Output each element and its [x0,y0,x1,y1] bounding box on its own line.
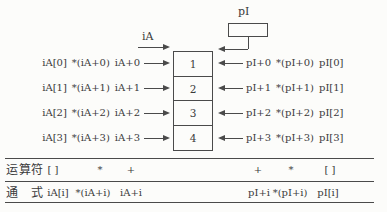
row-arrow-right-icon [144,88,163,89]
pointer-notation-row: pI+3 *(pI+3) pI[3] [246,131,344,145]
pointer-notation-row: pI+1 *(pI+1) pI[1] [246,81,344,95]
operator-row-label: 运算符 [6,163,44,177]
operator-plus-right: + [254,163,262,176]
row-arrow-left-icon [225,88,243,89]
array-deref-form: *(iA+0) [72,56,110,70]
row-arrow-right-icon [144,113,163,114]
pointer-arrow-left-icon [225,49,248,50]
pointer-addr-form: pI+1 [246,81,271,95]
form-pointer-addr: pI+i [248,186,270,199]
memory-cells-box: 1 2 3 4 [173,51,213,151]
array-addr-form: iA+0 [115,56,140,70]
operator-star-left: * [98,163,103,176]
operator-star-right: * [289,163,294,176]
operator-plus-left: + [127,163,135,176]
array-notation-row: iA[0] *(iA+0) iA+0 [42,56,140,70]
operator-bracket-right: [ ] [325,163,336,176]
form-pointer-deref: *(pI+i) [273,186,308,199]
pointer-addr-form: pI+3 [246,131,271,145]
memory-cell: 3 [174,101,212,126]
array-addr-form: iA+3 [115,131,140,145]
row-arrow-right-icon [144,63,163,64]
array-arrow-right-icon [138,47,163,48]
operator-bracket-left: [ ] [48,163,59,176]
array-addr-form: iA+2 [115,106,140,120]
row-arrow-right-icon [144,138,163,139]
memory-cell: 2 [174,77,212,102]
pointer-addr-form: pI+2 [246,106,271,120]
row-arrow-left-icon [225,113,243,114]
memory-cell: 1 [174,52,212,77]
pointer-variable-box [228,23,268,37]
form-pointer-index: pI[i] [317,186,338,199]
array-deref-form: *(iA+1) [72,81,110,95]
pointer-notation-row: pI+0 *(pI+0) pI[0] [246,56,344,70]
pointer-deref-form: *(pI+2) [276,106,314,120]
array-notation-row: iA[3] *(iA+3) iA+3 [42,131,140,145]
array-addr-form: iA+1 [115,81,140,95]
array-deref-form: *(iA+3) [72,131,110,145]
array-notation-row: iA[2] *(iA+2) iA+2 [42,106,140,120]
pointer-index-form: pI[1] [319,81,344,95]
pointer-connector-line [248,36,249,49]
form-array-addr: iA+i [120,186,142,199]
pointer-addr-form: pI+0 [246,56,271,70]
array-index-form: iA[1] [42,81,67,95]
pointer-index-form: pI[0] [319,56,344,70]
pointer-variable-label: pI [238,6,249,18]
table-top-rule [5,158,374,159]
pointer-deref-form: *(pI+1) [276,81,314,95]
pointer-deref-form: *(pI+0) [276,56,314,70]
array-notation-row: iA[1] *(iA+1) iA+1 [42,81,140,95]
row-arrow-left-icon [225,63,243,64]
array-index-form: iA[3] [42,131,67,145]
row-arrow-left-icon [225,138,243,139]
table-middle-rule [5,181,374,182]
array-index-form: iA[0] [42,56,67,70]
pointer-notation-row: pI+2 *(pI+2) pI[2] [246,106,344,120]
pointer-deref-form: *(pI+3) [276,131,314,145]
pointer-array-figure: pI iA 1 2 3 4 iA[0] *(iA+0) iA+0 pI+0 *(… [0,0,387,212]
form-array-deref: *(iA+i) [76,186,111,199]
memory-cell: 4 [174,126,212,151]
array-deref-form: *(iA+2) [72,106,110,120]
array-name-label: iA [142,31,153,43]
general-form-row-label: 通 式 [6,186,44,200]
table-bottom-rule [5,202,374,203]
pointer-index-form: pI[2] [319,106,344,120]
array-index-form: iA[2] [42,106,67,120]
form-array-index: iA[i] [47,186,68,199]
pointer-index-form: pI[3] [319,131,344,145]
